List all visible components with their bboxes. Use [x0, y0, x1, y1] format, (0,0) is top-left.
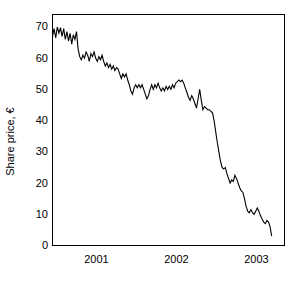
plot-area: [0, 0, 300, 283]
x-axis-tick-labels: 200120022003: [0, 254, 300, 270]
share-price-chart: Share price, € 010203040506070 200120022…: [0, 0, 300, 283]
x-tick-label: 2002: [152, 254, 202, 265]
x-tick-label: 2001: [72, 254, 122, 265]
share-price-line: [53, 27, 272, 236]
x-tick-label: 2003: [232, 254, 282, 265]
